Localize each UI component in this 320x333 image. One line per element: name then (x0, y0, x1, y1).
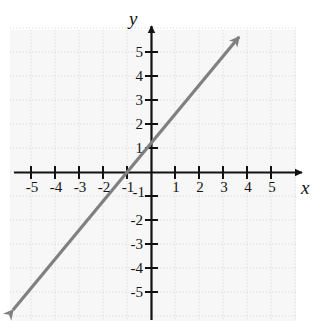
plot-canvas (0, 0, 320, 333)
y-tick-label-5: 5 (136, 45, 144, 60)
x-tick-label--2: -2 (98, 180, 111, 195)
x-tick-label--4: -4 (50, 180, 63, 195)
y-tick-label--5: -5 (131, 285, 144, 300)
y-tick-label--4: -4 (131, 261, 144, 276)
plot-background (10, 30, 296, 321)
y-tick-label--1: -1 (133, 185, 146, 200)
x-tick-label-4: 4 (244, 180, 252, 195)
y-tick-label--3: -3 (131, 237, 144, 252)
x-tick-label--5: -5 (26, 180, 39, 195)
y-tick-label-1: 1 (136, 141, 144, 156)
x-tick-label-5: 5 (268, 180, 276, 195)
y-tick-label-2: 2 (136, 117, 144, 132)
y-tick-label-3: 3 (136, 93, 144, 108)
x-tick-label-2: 2 (196, 180, 204, 195)
x-axis-label: x (301, 178, 309, 197)
x-tick-label-3: 3 (220, 180, 228, 195)
coordinate-graph: y x -5 -4 -3 -2 -1 1 2 3 4 5 5 4 3 2 1 -… (0, 0, 320, 333)
y-tick-label--2: -2 (131, 213, 144, 228)
x-tick-label-1: 1 (172, 180, 180, 195)
y-axis-label: y (129, 9, 137, 28)
y-tick-label-4: 4 (136, 69, 144, 84)
x-tick-label--3: -3 (74, 180, 87, 195)
